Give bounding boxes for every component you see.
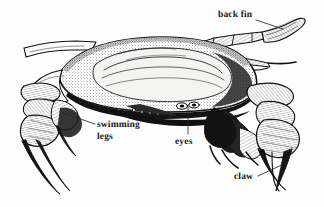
crab-illustration xyxy=(0,0,324,207)
carapace xyxy=(60,37,257,119)
label-swimming-legs: swimminglegs xyxy=(97,120,140,143)
crab-anatomy-figure: back fin swimminglegs eyes claw xyxy=(0,0,324,207)
label-claw: claw xyxy=(234,172,253,184)
label-swimming-legs-line1: swimming xyxy=(97,120,140,130)
label-eyes: eyes xyxy=(175,137,192,149)
label-swimming-legs-line2: legs xyxy=(97,132,113,142)
label-back-fin: back fin xyxy=(218,10,252,22)
